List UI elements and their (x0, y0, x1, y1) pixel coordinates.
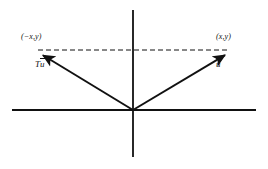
point-label-original: (x,y) (216, 33, 231, 41)
point-label-reflected: (−x,y) (21, 33, 41, 41)
vector-tu-arrow (43, 55, 133, 110)
vector-u-arrow (133, 55, 225, 110)
vector-label-u-base: u (216, 60, 221, 69)
vector-label-u: u (216, 60, 221, 69)
math-figure-reflection-diagram: (−x,y) (x,y) Tu u (0, 0, 268, 169)
vector-label-tu-base: u (40, 60, 45, 69)
diagram-canvas (0, 0, 268, 169)
vector-label-tu: Tu (35, 60, 45, 69)
